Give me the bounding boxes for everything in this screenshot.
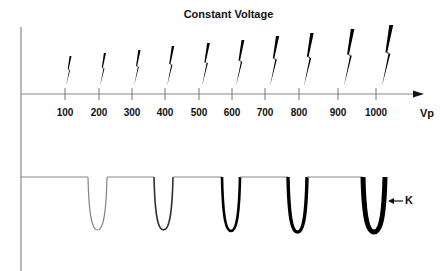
tick-label: 900 <box>330 107 347 118</box>
tick-label: 400 <box>157 107 174 118</box>
pulse-dip <box>222 177 240 231</box>
lightning-bolt-icon <box>134 50 141 86</box>
tick-label: 500 <box>191 107 208 118</box>
tick-label: 1000 <box>365 107 387 118</box>
lightning-bolt-icon <box>66 56 72 86</box>
tick-label: 100 <box>57 107 74 118</box>
lightning-bolt-icon <box>236 40 244 86</box>
k-arrow-head-icon <box>388 198 394 204</box>
lightning-bolt-icon <box>167 46 174 86</box>
tick-label: 800 <box>291 107 308 118</box>
pulse-dip <box>88 177 107 230</box>
lightning-bolt-icon <box>344 29 354 86</box>
lightning-bolts <box>66 25 393 86</box>
tick-label: 600 <box>224 107 241 118</box>
tick-label: 700 <box>257 107 274 118</box>
diagram-title: Constant Voltage <box>0 8 447 20</box>
pulse-dip <box>288 177 307 232</box>
tick-label: 300 <box>124 107 141 118</box>
constant-voltage-diagram <box>0 0 447 271</box>
lightning-bolt-icon <box>382 25 393 86</box>
x-axis-label: Vp <box>420 107 434 119</box>
pulse-dip <box>154 177 173 230</box>
axis-arrow-icon <box>413 91 424 98</box>
tick-label: 200 <box>91 107 108 118</box>
pulse-dip <box>363 177 385 232</box>
lightning-bolt-icon <box>270 36 279 86</box>
lightning-bolt-icon <box>100 53 106 86</box>
pulse-waveform <box>21 177 385 232</box>
lightning-bolt-icon <box>202 43 210 86</box>
k-annotation-label: K <box>405 194 413 206</box>
lightning-bolt-icon <box>304 33 314 86</box>
